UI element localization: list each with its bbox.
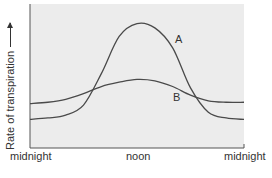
x-tick-midnight-end: midnight (224, 150, 266, 162)
series-b-label: B (173, 91, 180, 103)
x-tick-noon: noon (126, 150, 150, 162)
x-tick-midnight-start: midnight (10, 150, 52, 162)
arrow-up-icon (10, 23, 11, 47)
y-axis-label: Rate of transpiration (3, 10, 17, 150)
y-axis-label-text: Rate of transpiration (4, 51, 16, 150)
plot-area (30, 4, 244, 148)
series-a-label: A (175, 33, 182, 45)
